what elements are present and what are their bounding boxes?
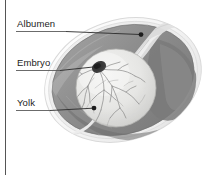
label-albumen: Albumen xyxy=(17,18,55,29)
figure-canvas: Albumen Embryo Yolk xyxy=(0,0,213,175)
label-yolk: Yolk xyxy=(17,97,35,108)
label-embryo: Embryo xyxy=(17,57,50,68)
